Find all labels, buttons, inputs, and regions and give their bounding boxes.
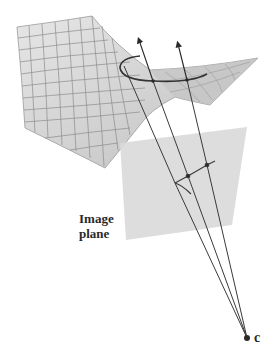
image-plane-label-line1: Image	[79, 211, 114, 226]
image-plane-label-line2: plane	[79, 226, 114, 241]
projected-point-1	[186, 174, 190, 178]
camera-center-label: c	[254, 330, 260, 346]
image-plane-label: Image plane	[79, 211, 114, 241]
diagram-canvas	[0, 0, 277, 357]
camera-center-point	[244, 335, 250, 341]
image-plane	[120, 127, 247, 240]
projected-point-2	[205, 163, 209, 167]
